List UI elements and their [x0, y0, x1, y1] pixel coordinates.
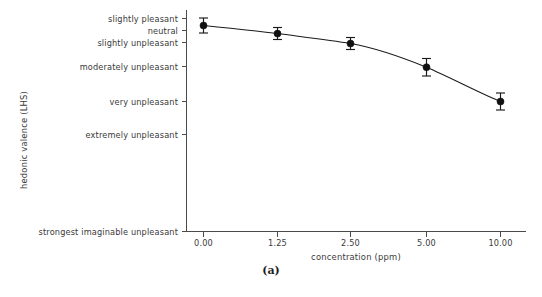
figure-caption: (a) [0, 264, 542, 277]
y-axis-title: hedonic valence (LHS) [19, 91, 29, 189]
data-point [496, 93, 505, 110]
y-tickmarks [182, 19, 187, 232]
x-tick-label-3: 5.00 [417, 238, 436, 248]
x-tick-label-0: 0.00 [194, 238, 213, 248]
data-point [273, 28, 282, 40]
marker-point [200, 22, 207, 29]
x-tick-label-1: 1.25 [268, 238, 287, 248]
marker-point [274, 30, 281, 37]
marker-point [497, 98, 504, 105]
x-tick-label-2: 2.50 [341, 238, 360, 248]
x-axis-title: concentration (ppm) [311, 252, 401, 262]
data-points-group [199, 18, 505, 110]
y-tick-label-extremely-unpleasant: extremely unpleasant [86, 130, 179, 140]
chart-canvas: slightly pleasant neutral slightly unple… [0, 0, 542, 297]
y-tick-label-very-unpleasant: very unpleasant [109, 97, 178, 107]
data-point [422, 59, 431, 77]
y-tick-label-neutral: neutral [148, 26, 178, 36]
data-point [346, 38, 355, 50]
figure-panel: slightly pleasant neutral slightly unple… [0, 0, 542, 297]
x-tickmarks [204, 232, 501, 237]
x-tick-label-4: 10.00 [488, 238, 512, 248]
y-tick-label-moderately-unpleasant: moderately unpleasant [80, 62, 179, 72]
marker-point [423, 64, 430, 71]
y-tick-label-slightly-unpleasant: slightly unpleasant [97, 38, 178, 48]
y-tick-label-strongest-imaginable-unpleasant: strongest imaginable unpleasant [39, 227, 179, 237]
y-tick-label-slightly-pleasant: slightly pleasant [108, 14, 179, 24]
marker-point [347, 40, 354, 47]
data-series-line [204, 26, 501, 102]
data-point [199, 18, 208, 33]
